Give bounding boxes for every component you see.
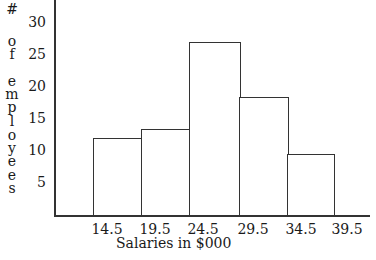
y-tick-label: 5 [18, 175, 46, 189]
histogram-bar [189, 42, 241, 215]
x-tick-label: 19.5 [139, 222, 170, 236]
histogram-chart: #ofemployees 51015202530 14.519.524.529.… [0, 0, 376, 260]
x-axis-line [54, 215, 370, 217]
histogram-bar [239, 97, 289, 215]
y-axis-title-letter: # [4, 2, 20, 16]
x-axis-title: Salaries in $000 [116, 236, 231, 250]
x-tick-label: 39.5 [331, 222, 362, 236]
y-tick-label: 30 [18, 15, 46, 29]
x-tick-label: 24.5 [187, 222, 218, 236]
x-tick-label: 14.5 [91, 222, 122, 236]
y-tick-label: 20 [18, 79, 46, 93]
y-axis-line [54, 0, 56, 216]
histogram-bar [287, 154, 335, 215]
y-tick-label: 10 [18, 143, 46, 157]
y-tick-label: 25 [18, 47, 46, 61]
histogram-bar [93, 138, 143, 215]
histogram-bar [141, 129, 191, 215]
x-tick-label: 29.5 [237, 222, 268, 236]
x-tick-label: 34.5 [285, 222, 316, 236]
y-tick-label: 15 [18, 111, 46, 125]
